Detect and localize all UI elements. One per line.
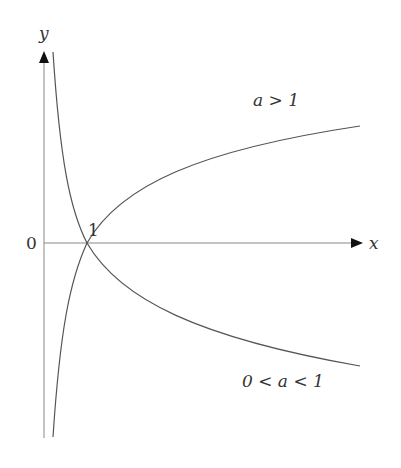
y-axis-arrow-icon — [39, 51, 49, 63]
x-axis-arrow-icon — [351, 238, 363, 248]
origin-label: 0 — [26, 235, 37, 252]
x-axis-label: x — [369, 235, 379, 252]
curve-label-a-less-1: 0 < a < 1 — [242, 373, 324, 390]
curve-label-a-greater-1: a > 1 — [253, 92, 299, 109]
y-axis-label: y — [39, 25, 49, 42]
log-graph — [0, 0, 401, 468]
curve-a-less-1 — [53, 52, 360, 366]
point-one-label: 1 — [88, 222, 99, 239]
